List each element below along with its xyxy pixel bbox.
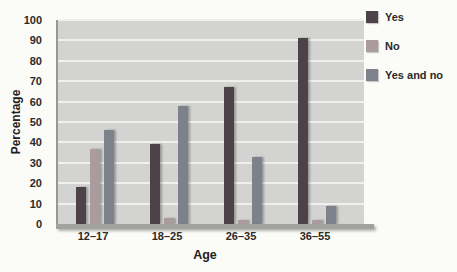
y-tick-label-10: 10 [2, 197, 42, 211]
bars-layer [58, 20, 364, 224]
x-tick-label-36–55: 36–55 [300, 230, 331, 242]
bar-group-26–35 [224, 87, 262, 224]
legend-label-yes-and-no: Yes and no [385, 69, 443, 81]
legend-swatch-yes-and-no [366, 69, 378, 81]
y-tick-label-70: 70 [2, 74, 42, 88]
bar-yes-and-no-36–55 [326, 206, 336, 224]
bar-yes-12–17 [76, 187, 86, 224]
bar-group-18–25 [150, 106, 188, 224]
bar-group-36–55 [298, 38, 336, 224]
y-tick-label-80: 80 [2, 54, 42, 68]
bar-yes-and-no-18–25 [178, 106, 188, 224]
bar-yes-26–35 [224, 87, 234, 224]
bar-yes-36–55 [298, 38, 308, 224]
legend-label-no: No [385, 40, 400, 52]
legend-swatch-no [366, 40, 378, 52]
legend-item-yes-and-no: Yes and no [366, 69, 443, 81]
bar-yes-18–25 [150, 144, 160, 224]
plot-area [56, 20, 364, 224]
y-tick-label-50: 50 [2, 115, 42, 129]
y-tick-label-90: 90 [2, 33, 42, 47]
bar-chart-figure: Percentage 0102030405060708090100 12–171… [0, 0, 457, 272]
x-axis-title: Age [193, 248, 217, 262]
legend-swatch-yes [366, 11, 378, 23]
y-tick-label-100: 100 [2, 13, 42, 27]
x-axis-labels: 12–1718–2526–3536–55 [56, 230, 362, 242]
legend-item-yes: Yes [366, 11, 443, 23]
y-tick-label-60: 60 [2, 95, 42, 109]
x-tick-label-18–25: 18–25 [152, 230, 183, 242]
y-tick-label-0: 0 [2, 217, 42, 231]
legend: Yes No Yes and no [366, 11, 443, 81]
y-axis-labels: 0102030405060708090100 [0, 20, 50, 224]
y-tick-label-40: 40 [2, 135, 42, 149]
y-tick-label-20: 20 [2, 176, 42, 190]
legend-label-yes: Yes [385, 11, 404, 23]
bar-yes-and-no-26–35 [252, 157, 262, 224]
legend-item-no: No [366, 40, 443, 52]
x-tick-label-12–17: 12–17 [78, 230, 109, 242]
x-tick-label-26–35: 26–35 [226, 230, 257, 242]
bar-group-12–17 [76, 130, 114, 224]
bar-yes-and-no-12–17 [104, 130, 114, 224]
bar-no-12–17 [90, 149, 100, 224]
x-axis-baseline [56, 224, 374, 229]
y-tick-label-30: 30 [2, 156, 42, 170]
